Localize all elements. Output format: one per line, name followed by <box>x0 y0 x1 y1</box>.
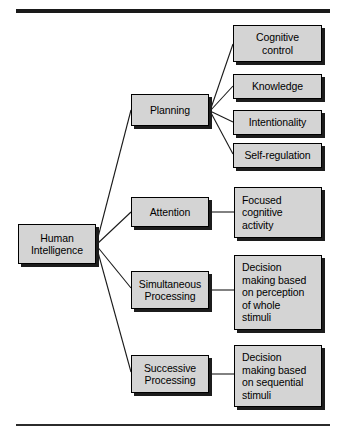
node-successive-processing[interactable]: SuccessiveProcessing <box>131 355 209 393</box>
node-simultaneous-processing[interactable]: SimultaneousProcessing <box>131 271 209 309</box>
node-label: Decisionmaking basedon perceptionof whol… <box>242 261 321 324</box>
connector-root-to-planning <box>96 110 131 245</box>
node-label: Focusedcognitiveactivity <box>242 194 321 232</box>
node-focused-cognitive-activity[interactable]: Focusedcognitiveactivity <box>234 187 322 238</box>
node-self-regulation[interactable]: Self-regulation <box>233 143 322 168</box>
node-label: HumanIntelligence <box>22 232 92 257</box>
node-decision-making-sequential-stimuli[interactable]: Decisionmaking basedon sequentialstimuli <box>234 345 322 407</box>
bottom-divider-rule <box>16 424 330 426</box>
node-label: Knowledge <box>237 80 318 93</box>
node-human-intelligence[interactable]: HumanIntelligence <box>18 224 96 264</box>
node-knowledge[interactable]: Knowledge <box>233 74 322 99</box>
node-label: Decisionmaking basedon sequentialstimuli <box>242 351 321 401</box>
node-label: Planning <box>135 104 205 117</box>
node-label: Attention <box>135 206 205 219</box>
connector-planning-to-self-regulation <box>210 111 233 154</box>
node-cognitive-control[interactable]: Cognitivecontrol <box>233 25 322 62</box>
node-label: SimultaneousProcessing <box>135 278 205 303</box>
connector-planning-to-cognitive-control <box>210 44 233 111</box>
node-label: SuccessiveProcessing <box>135 362 205 387</box>
connector-planning-to-knowledge <box>210 86 233 111</box>
node-attention[interactable]: Attention <box>131 197 209 227</box>
node-intentionality[interactable]: Intentionality <box>233 110 322 135</box>
node-label: Self-regulation <box>237 149 318 162</box>
connector-root-to-attention <box>96 212 131 245</box>
node-decision-making-perception-whole-stimuli[interactable]: Decisionmaking basedon perceptionof whol… <box>234 255 322 330</box>
node-planning[interactable]: Planning <box>131 94 209 126</box>
connector-root-to-simultaneous <box>96 245 131 288</box>
connector-root-to-successive <box>96 245 131 372</box>
node-label: Cognitivecontrol <box>237 31 318 56</box>
diagram-canvas: HumanIntelligence Planning Cognitivecont… <box>0 0 342 443</box>
node-label: Intentionality <box>237 116 318 129</box>
